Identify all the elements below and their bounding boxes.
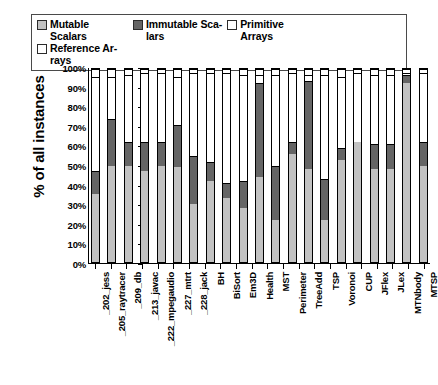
stacked-bar <box>271 68 280 263</box>
stacked-bar <box>255 68 264 263</box>
bar-segment <box>240 208 247 262</box>
x-axis-label-slot: Health <box>255 272 264 382</box>
x-axis-tick-mark <box>314 264 315 269</box>
bar-segment <box>305 169 312 262</box>
stacked-bar <box>140 68 149 263</box>
stacked-bar <box>402 68 411 263</box>
bar-segment <box>338 148 345 160</box>
bar-segment <box>289 154 296 262</box>
bar-segment <box>289 73 296 142</box>
bar-segment <box>158 142 165 165</box>
stacked-bar <box>189 68 198 263</box>
bar-segment <box>403 75 410 83</box>
x-axis-label-slot: Voronoi <box>338 272 347 382</box>
x-axis-label-slot: Perimeter <box>288 272 297 382</box>
bar-segment <box>256 83 263 178</box>
y-axis-tick-label: 10% <box>68 239 86 250</box>
x-axis-label-slot: _202_jess <box>91 272 100 382</box>
legend-item: Immutable Sca- lars <box>133 18 222 42</box>
bar-segment <box>125 75 132 143</box>
y-axis-tick-label: 60% <box>68 141 86 152</box>
bar-segment <box>321 75 328 179</box>
bar-segment <box>272 166 279 220</box>
y-axis-tick-label: 50% <box>68 161 86 172</box>
bar-segment <box>92 171 99 194</box>
legend-item: Primitive Arrays <box>227 18 318 42</box>
bar-segment <box>321 220 328 262</box>
bar-segment <box>338 160 345 262</box>
stacked-bar <box>107 68 116 263</box>
x-axis-label-slot: TSP <box>321 272 330 382</box>
bar-segment <box>108 77 115 119</box>
x-axis-tick-mark <box>299 264 300 269</box>
bar-segment <box>141 142 148 171</box>
x-axis-label-slot: _213_javac <box>140 272 149 382</box>
y-axis-tick-label: 90% <box>68 82 86 93</box>
stacked-bar <box>206 68 215 263</box>
x-axis-label-slot: BiSort <box>223 272 232 382</box>
bar-segment <box>207 73 214 162</box>
x-axis-label-slot: JFlex <box>370 272 379 382</box>
x-axis-tick-mark <box>189 264 190 269</box>
x-axis-label-slot: CUP <box>354 272 363 382</box>
x-axis-tick-mark <box>142 264 143 269</box>
bar-group <box>89 68 430 263</box>
bar-segment <box>223 183 230 198</box>
bar-segment <box>223 198 230 262</box>
stacked-bar <box>353 68 362 263</box>
bar-segment <box>338 69 345 77</box>
x-axis-tick-mark <box>283 264 284 269</box>
y-axis-tick-label: 40% <box>68 180 86 191</box>
plot-area <box>88 68 430 264</box>
stacked-bar <box>288 68 297 263</box>
x-axis-tick-mark <box>173 264 174 269</box>
bar-segment <box>174 125 181 167</box>
bar-segment <box>158 73 165 142</box>
bar-segment <box>190 156 197 204</box>
x-axis-tick-mark <box>267 264 268 269</box>
bar-segment <box>387 169 394 262</box>
x-axis-tick-mark <box>236 264 237 269</box>
bar-segment <box>125 142 132 165</box>
x-axis-label-slot: _209_db <box>124 272 133 382</box>
bar-segment <box>420 73 427 142</box>
y-axis-tick-label: 30% <box>68 200 86 211</box>
bar-segment <box>420 142 427 165</box>
bar-segment <box>240 75 247 181</box>
x-axis-tick-mark <box>392 264 393 269</box>
stacked-bar <box>337 68 346 263</box>
x-axis-tick-mark <box>111 264 112 269</box>
legend-item-label: Mutable Scalars <box>50 18 128 42</box>
bar-segment <box>371 75 378 144</box>
x-axis-label-slot: MST <box>272 272 281 382</box>
x-axis-label-slot: _227_mtrt <box>173 272 182 382</box>
x-axis-tick-mark <box>126 264 127 269</box>
y-axis-tick-label: 20% <box>68 219 86 230</box>
legend-swatch-icon <box>133 20 143 30</box>
stacked-bar <box>91 68 100 263</box>
x-axis-tick-mark <box>205 264 206 269</box>
stacked-bar <box>124 68 133 263</box>
x-axis-tick-mark <box>346 264 347 269</box>
bar-segment <box>256 177 263 262</box>
bar-segment <box>207 162 214 181</box>
bar-segment <box>174 77 181 125</box>
bar-segment <box>190 73 197 156</box>
bar-segment <box>354 73 361 142</box>
x-axis-tick-mark <box>220 264 221 269</box>
legend-swatch-icon <box>227 20 237 30</box>
stacked-bar <box>370 68 379 263</box>
bar-segment <box>387 75 394 144</box>
x-axis-tick-labels: _202_jess_205_raytracer_209_db_213_javac… <box>89 272 431 382</box>
bar-segment <box>141 171 148 262</box>
x-axis-label-slot: JLex <box>387 272 396 382</box>
bar-segment <box>207 181 214 262</box>
bar-segment <box>321 179 328 220</box>
bar-segment <box>240 181 247 208</box>
x-axis-tick-mark <box>158 264 159 269</box>
x-axis-tick-marks <box>89 264 431 270</box>
bar-segment <box>338 77 345 148</box>
x-axis-label-slot: BH <box>206 272 215 382</box>
bar-segment <box>141 73 148 142</box>
bar-segment <box>125 166 132 263</box>
